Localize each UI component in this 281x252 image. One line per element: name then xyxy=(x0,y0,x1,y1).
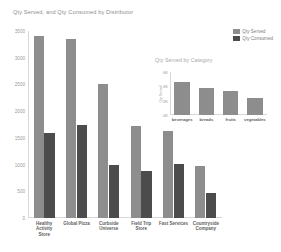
y-axis-tick-label: 1500 xyxy=(15,135,25,140)
bar[interactable] xyxy=(44,133,54,218)
bar[interactable] xyxy=(98,84,108,218)
y-axis-tick-label: 3000 xyxy=(15,55,25,60)
inset-chart-title: Qty Served by Category xyxy=(155,57,213,63)
x-axis-tick-label: CountrysideCompany xyxy=(193,221,219,232)
inset-plot-area: Qty Served 0K2K4K6Kbeveragesbreadsfruits… xyxy=(170,72,267,115)
legend: Qty Served Qty Consumed xyxy=(233,29,273,41)
x-axis-tick-label: Global Pizza xyxy=(63,221,90,226)
y-axis-tick-label: 3500 xyxy=(15,29,25,34)
bar[interactable] xyxy=(131,126,141,218)
chart-canvas: Qty Served, and Qty Consumed by Distribu… xyxy=(0,0,281,252)
legend-item-qty-served[interactable]: Qty Served xyxy=(233,29,273,34)
y-axis-tick-label: 2000 xyxy=(15,109,25,114)
inset-x-axis-tick-label: beverages xyxy=(172,117,193,122)
legend-label: Qty Served xyxy=(242,29,265,34)
inset-y-axis-tick-label: 2K xyxy=(163,98,168,103)
main-chart-title: Qty Served, and Qty Consumed by Distribu… xyxy=(13,9,133,15)
y-axis-tick-label: 1000 xyxy=(15,162,25,167)
x-axis-tick-label: Fast Services xyxy=(159,221,188,226)
bar[interactable] xyxy=(34,36,44,218)
inset-y-axis-tick-label: 0K xyxy=(163,113,168,118)
inset-x-axis-tick-label: fruits xyxy=(225,117,235,122)
legend-swatch-icon xyxy=(233,29,240,34)
bar-group: HealthyActivityStore xyxy=(28,31,60,218)
x-axis-tick-label: Field TripStore xyxy=(131,221,151,232)
x-axis-tick-label: HealthyActivityStore xyxy=(36,221,52,237)
inset-bar[interactable] xyxy=(199,88,215,115)
inset-bar-group: fruits xyxy=(219,72,243,115)
bar[interactable] xyxy=(109,165,119,218)
bar[interactable] xyxy=(141,171,151,218)
inset-y-axis-tick-label: 6K xyxy=(163,70,168,75)
inset-bar[interactable] xyxy=(174,82,190,115)
inset-x-axis-tick-label: breads xyxy=(200,117,214,122)
bar[interactable] xyxy=(66,39,76,218)
y-axis-tick-label: 2500 xyxy=(15,82,25,87)
inset-bar[interactable] xyxy=(247,98,263,115)
inset-y-axis-tick-label: 4K xyxy=(163,84,168,89)
inset-chart: Qty Served by Category Qty Served 0K2K4K… xyxy=(143,57,276,130)
bar[interactable] xyxy=(195,166,205,218)
inset-bar-group: beverages xyxy=(170,72,194,115)
legend-label: Qty Consumed xyxy=(242,36,273,41)
y-axis-tick-label: 0 xyxy=(22,216,25,221)
bar[interactable] xyxy=(77,125,87,219)
bar[interactable] xyxy=(206,193,216,218)
inset-x-axis-tick-label: vegetables xyxy=(244,117,266,122)
inset-bar-group: vegetables xyxy=(243,72,267,115)
inset-bar[interactable] xyxy=(223,91,239,115)
y-axis-tick-label: 500 xyxy=(17,189,25,194)
x-axis-tick-label: CurbsideUniverse xyxy=(99,221,119,232)
legend-item-qty-consumed[interactable]: Qty Consumed xyxy=(233,36,273,41)
legend-swatch-icon xyxy=(233,36,240,41)
bar-group: CurbsideUniverse xyxy=(93,31,125,218)
bar-group: Global Pizza xyxy=(60,31,92,218)
inset-bar-group: breads xyxy=(194,72,218,115)
bar[interactable] xyxy=(174,164,184,218)
bar[interactable] xyxy=(163,131,173,218)
